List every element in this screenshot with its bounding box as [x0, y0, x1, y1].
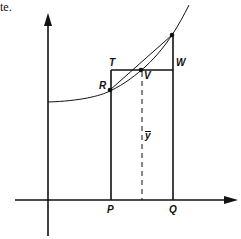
chord: [110, 35, 172, 90]
point-v: [139, 68, 144, 73]
label-r: R: [99, 81, 106, 91]
label-v: V: [144, 71, 151, 81]
label-w: W: [176, 58, 185, 68]
curve: [48, 5, 189, 102]
point-top: [170, 33, 175, 38]
label-t: T: [109, 58, 115, 68]
y-axis-arrow-icon: [44, 13, 52, 26]
label-ybar: y: [145, 131, 151, 141]
diagram-canvas: [0, 0, 241, 239]
x-axis-arrow-icon: [224, 196, 238, 204]
label-q: Q: [169, 205, 177, 215]
label-p: P: [107, 205, 114, 215]
point-r: [108, 88, 113, 93]
